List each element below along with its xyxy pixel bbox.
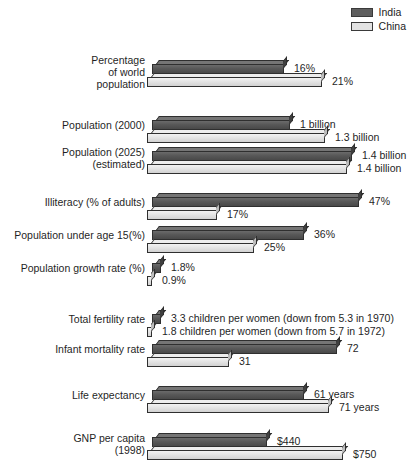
category-label-line: Population growth rate (%) xyxy=(0,262,145,274)
category-label: Illiteracy (% of adults) xyxy=(0,196,145,208)
legend-swatch-china xyxy=(351,22,373,31)
bar-group: Infant mortality rate7231 xyxy=(0,332,410,378)
category-label: Percentageof worldpopulation xyxy=(0,54,145,90)
bar-wrap-china: 31 xyxy=(147,353,407,367)
bar-value-label: $750 xyxy=(353,448,376,460)
india-china-comparison-chart: IndiaChina Percentageof worldpopulation1… xyxy=(0,0,410,475)
bar-group: Population under age 15(%)36%25% xyxy=(0,218,410,251)
bar-wrap-india: 61 years xyxy=(152,386,410,400)
bar-wrap-india: 72 xyxy=(152,340,410,354)
bar-wrap-india: 1.8% xyxy=(152,259,410,273)
legend-label: China xyxy=(379,21,406,32)
bar-china[interactable] xyxy=(147,450,343,460)
bar-wrap-india: 36% xyxy=(152,226,410,240)
bar-wrap-india: 16% xyxy=(152,60,410,74)
bar-group: Population (2025)(estimated)1.4 billion1… xyxy=(0,139,410,183)
category-label: Population under age 15(%) xyxy=(0,229,145,241)
category-label: Total fertility rate xyxy=(0,313,145,325)
bar-value-label: 21% xyxy=(332,75,353,87)
bar-china[interactable] xyxy=(147,164,347,174)
bar-china[interactable] xyxy=(147,77,322,87)
bar-value-label: 1.4 billion xyxy=(357,162,401,174)
legend-swatch-india xyxy=(351,8,373,17)
bar-group: GNP per capita(1998)$440$750 xyxy=(0,425,410,471)
category-label-line: GNP per capita xyxy=(0,432,145,444)
category-label-line: Population (2025) xyxy=(0,146,145,158)
bar-value-label: 0.9% xyxy=(162,274,186,286)
bar-china[interactable] xyxy=(147,276,152,286)
bar-group: Life expectancy61 years71 years xyxy=(0,378,410,425)
bar-value-label: 71 years xyxy=(339,401,379,413)
category-label-line: Population under age 15(%) xyxy=(0,229,145,241)
bar-value-label: 31 xyxy=(239,355,251,367)
bar-group: Total fertility rate3.3 children per wom… xyxy=(0,302,410,332)
category-label-line: (estimated) xyxy=(0,158,145,170)
category-label: Infant mortality rate xyxy=(0,343,145,355)
bar-group: Population (2000)1 billion1.3 billion xyxy=(0,108,410,139)
category-label-line: of world xyxy=(0,66,145,78)
category-label: Population growth rate (%) xyxy=(0,262,145,274)
category-label: Population (2000) xyxy=(0,119,145,131)
bar-china[interactable] xyxy=(147,357,229,367)
bar-wrap-china: 71 years xyxy=(147,399,407,413)
category-label: Life expectancy xyxy=(0,389,145,401)
category-label-line: Percentage xyxy=(0,54,145,66)
bar-wrap-india: $440 xyxy=(152,433,410,447)
category-label-line: Total fertility rate xyxy=(0,313,145,325)
bar-wrap-india: 47% xyxy=(152,193,410,207)
legend-item-china[interactable]: China xyxy=(351,21,406,32)
bar-group: Percentageof worldpopulation16%21% xyxy=(0,52,410,98)
bar-group: Population growth rate (%)1.8%0.9% xyxy=(0,251,410,285)
category-label-line: (1998) xyxy=(0,444,145,456)
bar-wrap-china: 0.9% xyxy=(147,272,407,286)
bar-wrap-india: 1.4 billion xyxy=(152,147,410,161)
category-label-line: Life expectancy xyxy=(0,389,145,401)
legend-item-india[interactable]: India xyxy=(351,7,406,18)
chart-legend: IndiaChina xyxy=(351,7,406,32)
category-label: Population (2025)(estimated) xyxy=(0,146,145,170)
category-label-line: population xyxy=(0,78,145,90)
bar-wrap-china: 1.4 billion xyxy=(147,160,407,174)
category-label-line: Population (2000) xyxy=(0,119,145,131)
bar-china[interactable] xyxy=(147,403,329,413)
legend-label: India xyxy=(379,7,402,18)
bar-wrap-india: 1 billion xyxy=(152,116,410,130)
category-label: GNP per capita(1998) xyxy=(0,432,145,456)
category-label-line: Illiteracy (% of adults) xyxy=(0,196,145,208)
category-label-line: Infant mortality rate xyxy=(0,343,145,355)
bar-wrap-china: 21% xyxy=(147,73,407,87)
bar-group: Illiteracy (% of adults)47%17% xyxy=(0,185,410,218)
bar-wrap-india: 3.3 children per women (down from 5.3 in… xyxy=(152,310,410,324)
bar-wrap-china: $750 xyxy=(147,446,407,460)
